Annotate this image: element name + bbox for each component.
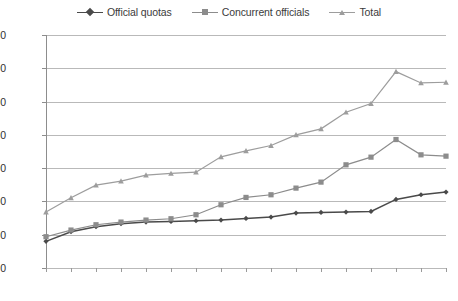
y-tick-label: 500 bbox=[0, 229, 6, 241]
chart-legend: Official quotas Concurrent officials Tot… bbox=[0, 6, 458, 18]
data-point bbox=[243, 195, 248, 200]
legend-label-official-quotas: Official quotas bbox=[107, 6, 172, 18]
legend-marker-official-quotas-icon bbox=[77, 7, 103, 17]
data-point bbox=[418, 192, 423, 197]
y-tick-label: 3500 bbox=[0, 29, 6, 41]
legend-item-official-quotas[interactable]: Official quotas bbox=[77, 6, 172, 18]
data-point bbox=[418, 152, 423, 157]
data-point bbox=[293, 186, 298, 191]
x-tick-mark bbox=[421, 268, 422, 272]
plot-area: 2000200120022003200420052006200720082009… bbox=[46, 35, 446, 268]
series-total bbox=[43, 69, 449, 215]
data-point bbox=[193, 218, 198, 223]
x-tick-mark bbox=[346, 268, 347, 272]
x-tick-mark bbox=[271, 268, 272, 272]
data-point bbox=[143, 217, 148, 222]
data-point bbox=[68, 227, 73, 232]
y-tick-label: 1000 bbox=[0, 195, 6, 207]
data-point bbox=[368, 155, 373, 160]
data-point bbox=[293, 210, 298, 215]
x-tick-mark bbox=[321, 268, 322, 272]
y-tick-label: 0 bbox=[0, 262, 6, 274]
data-point bbox=[443, 190, 448, 195]
x-tick-mark bbox=[371, 268, 372, 272]
data-point bbox=[268, 192, 273, 197]
y-tick-label: 2500 bbox=[0, 96, 6, 108]
data-point bbox=[43, 209, 49, 214]
data-point bbox=[443, 154, 448, 159]
data-point bbox=[218, 202, 223, 207]
legend-label-concurrent-officials: Concurrent officials bbox=[222, 6, 310, 18]
data-point bbox=[318, 210, 323, 215]
data-point bbox=[43, 239, 48, 244]
y-tick-label: 3000 bbox=[0, 62, 6, 74]
x-tick-mark bbox=[46, 268, 47, 272]
legend-marker-total-icon bbox=[329, 7, 355, 17]
data-point bbox=[393, 197, 398, 202]
data-point bbox=[218, 217, 223, 222]
data-point bbox=[343, 162, 348, 167]
x-tick-mark bbox=[121, 268, 122, 272]
x-tick-mark bbox=[396, 268, 397, 272]
data-point bbox=[93, 222, 98, 227]
x-tick-mark bbox=[296, 268, 297, 272]
data-point bbox=[343, 209, 348, 214]
x-tick-mark bbox=[446, 268, 447, 272]
x-tick-mark bbox=[146, 268, 147, 272]
data-point bbox=[393, 137, 398, 142]
legend-item-concurrent-officials[interactable]: Concurrent officials bbox=[192, 6, 310, 18]
x-tick-mark bbox=[221, 268, 222, 272]
data-point bbox=[43, 234, 48, 239]
data-point bbox=[68, 195, 74, 200]
line-chart: Official quotas Concurrent officials Tot… bbox=[0, 0, 458, 301]
x-tick-mark bbox=[171, 268, 172, 272]
data-point bbox=[393, 69, 399, 74]
legend-label-total: Total bbox=[359, 6, 381, 18]
x-tick-mark bbox=[196, 268, 197, 272]
data-point bbox=[268, 214, 273, 219]
x-tick-mark bbox=[96, 268, 97, 272]
y-tick-label: 1500 bbox=[0, 162, 6, 174]
data-point bbox=[193, 212, 198, 217]
y-tick-label: 2000 bbox=[0, 129, 6, 141]
data-point bbox=[118, 219, 123, 224]
series-plot bbox=[46, 35, 446, 268]
x-tick-mark bbox=[71, 268, 72, 272]
data-point bbox=[168, 216, 173, 221]
series-line bbox=[46, 140, 446, 237]
legend-item-total[interactable]: Total bbox=[329, 6, 381, 18]
data-point bbox=[318, 180, 323, 185]
data-point bbox=[368, 209, 373, 214]
legend-marker-concurrent-officials-icon bbox=[192, 7, 218, 17]
x-tick-mark bbox=[246, 268, 247, 272]
data-point bbox=[243, 216, 248, 221]
series-line bbox=[46, 72, 446, 212]
